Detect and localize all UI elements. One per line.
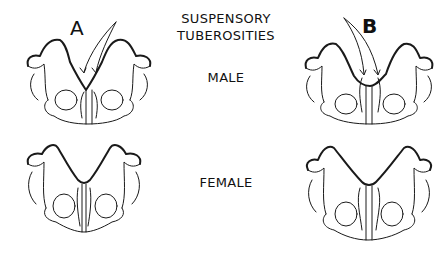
diagram-title: SUSPENSORY TUBEROSITIES bbox=[170, 10, 282, 44]
figure-male-b bbox=[300, 16, 440, 128]
figure-male-a bbox=[20, 18, 160, 128]
figure-female-a bbox=[22, 140, 152, 240]
row-label-male: MALE bbox=[170, 70, 282, 85]
figure-female-b bbox=[300, 140, 440, 248]
row-label-female: FEMALE bbox=[170, 175, 282, 190]
title-line-1: SUSPENSORY bbox=[170, 10, 282, 27]
pelvis-illustration-icon bbox=[300, 16, 440, 128]
pelvis-illustration-icon bbox=[300, 140, 440, 248]
pelvis-illustration-icon bbox=[22, 140, 152, 240]
title-line-2: TUBEROSITIES bbox=[170, 27, 282, 44]
pelvis-illustration-icon bbox=[20, 18, 160, 128]
